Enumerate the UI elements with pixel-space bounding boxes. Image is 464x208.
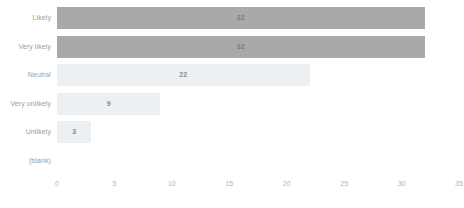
bar-value-neutral: 22	[179, 64, 187, 86]
bar-value-likely: 32	[237, 7, 245, 29]
x-tick-30: 30	[398, 180, 406, 187]
bar-row	[57, 147, 459, 176]
x-tick-10: 10	[168, 180, 176, 187]
bar-row: 22	[57, 61, 459, 90]
x-tick-20: 20	[283, 180, 291, 187]
category-label-neutral: Neutral	[0, 61, 51, 90]
bar-row: 32	[57, 33, 459, 62]
x-tick-5: 5	[112, 180, 116, 187]
category-label-unlikely: Unlikely	[0, 118, 51, 147]
bar-value-unlikely: 3	[72, 121, 76, 143]
category-label-very-unlikely: Very unlikely	[0, 90, 51, 119]
x-tick-25: 25	[340, 180, 348, 187]
bar-chart: Likely Very likely Neutral Very unlikely…	[0, 0, 464, 208]
category-label-likely: Likely	[0, 4, 51, 33]
x-tick-15: 15	[225, 180, 233, 187]
category-label-very-likely: Very likely	[0, 33, 51, 62]
x-tick-0: 0	[55, 180, 59, 187]
bar-row: 3	[57, 118, 459, 147]
x-tick-35: 35	[455, 180, 463, 187]
bar-row: 32	[57, 4, 459, 33]
x-axis: 0 5 10 15 20 25 30 35	[57, 180, 459, 200]
category-label-blank: (blank)	[0, 147, 51, 176]
category-axis-labels: Likely Very likely Neutral Very unlikely…	[0, 4, 51, 176]
bar-row: 9	[57, 90, 459, 119]
plot-area: 32 32 22 9 3	[57, 4, 459, 176]
bar-value-very-unlikely: 9	[107, 93, 111, 115]
bar-value-very-likely: 32	[237, 36, 245, 58]
